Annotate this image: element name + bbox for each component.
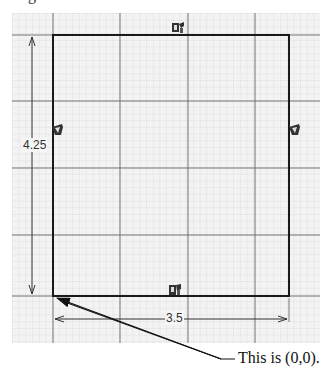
horizontal-constraint-icon[interactable] (169, 284, 181, 295)
origin-annotation: This is (0,0). (238, 349, 320, 367)
width-dimension-value[interactable]: 3.5 (165, 311, 184, 325)
sketch-grid (12, 13, 320, 343)
height-dimension-value[interactable]: 4.25 (22, 138, 47, 152)
